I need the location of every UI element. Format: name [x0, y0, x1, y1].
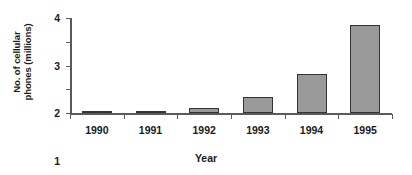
x-tick-mark [70, 114, 71, 119]
x-axis-title: Year [0, 152, 412, 164]
x-tick-mark [285, 114, 286, 119]
x-tick-label: 1990 [85, 124, 108, 136]
y-tick-label: 4 [54, 12, 60, 24]
x-tick-mark [177, 114, 178, 119]
bar [243, 97, 273, 113]
plot-area: 01234 199019911992199319941995 [70, 18, 392, 113]
y-axis-title-text: No. of cellular phones (millions) [11, 24, 34, 101]
y-tick-mark: 2 [66, 66, 71, 67]
bar [297, 74, 327, 113]
y-tick-label: 2 [54, 107, 60, 119]
bar [350, 25, 380, 113]
bar-chart: No. of cellular phones (millions) 01234 … [0, 0, 412, 175]
bar [189, 108, 219, 113]
x-tick-label: 1992 [192, 124, 215, 136]
x-tick-mark [338, 114, 339, 119]
x-tick-mark [392, 114, 393, 119]
x-tick-label: 1991 [139, 124, 162, 136]
x-tick-label: 1993 [246, 124, 269, 136]
y-tick-mark: 1 [66, 89, 71, 90]
bar [82, 111, 112, 113]
y-tick-mark: 4 [66, 18, 71, 19]
y-tick-label: 3 [54, 60, 60, 72]
x-tick-label: 1995 [353, 124, 376, 136]
x-tick-mark [231, 114, 232, 119]
bar [136, 111, 166, 113]
x-tick-label: 1994 [300, 124, 323, 136]
x-tick-mark [124, 114, 125, 119]
y-tick-mark: 3 [66, 42, 71, 43]
